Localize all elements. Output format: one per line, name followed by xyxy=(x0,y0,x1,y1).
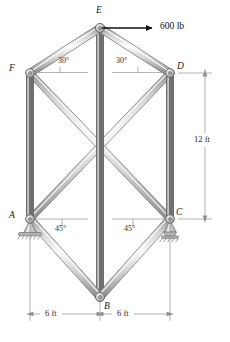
member-E-B xyxy=(98,28,100,297)
joint-pin-D xyxy=(166,69,175,78)
angle-label-30-left: 30° xyxy=(58,57,69,65)
dimension-label-span-left: 6 ft xyxy=(45,309,57,318)
angle-label-30-right: 30° xyxy=(116,57,127,65)
joint-label-E: E xyxy=(96,6,102,16)
dimension-line-span-6ft-right xyxy=(103,224,170,321)
joint-label-B: B xyxy=(104,302,110,312)
angle-label-45-left: 45° xyxy=(55,225,66,233)
joint-label-D: D xyxy=(177,62,184,72)
dimension-label-height: 12 ft xyxy=(194,135,210,144)
joint-label-A: A xyxy=(9,211,15,221)
load-label-600lb: 600 lb xyxy=(160,22,184,32)
angle-label-45-right: 45° xyxy=(124,225,135,233)
dimension-line-height-12ft xyxy=(178,73,216,219)
member-F-E xyxy=(30,27,100,73)
joint-label-F: F xyxy=(9,64,15,74)
member-F-A xyxy=(28,73,30,219)
angle-ref-line-C xyxy=(112,219,166,226)
joint-label-C: C xyxy=(176,208,182,218)
dimension-line-span-6ft-left xyxy=(30,224,100,321)
member-D-C xyxy=(168,73,170,219)
dimension-label-span-right: 6 ft xyxy=(117,309,129,318)
member-E-D xyxy=(100,27,170,73)
truss-diagram-canvas xyxy=(0,0,230,342)
joint-pin-F xyxy=(26,69,35,78)
truss-figure: E F D A C B 600 lb 30° 30° 45° 45° 12 ft… xyxy=(0,0,230,342)
